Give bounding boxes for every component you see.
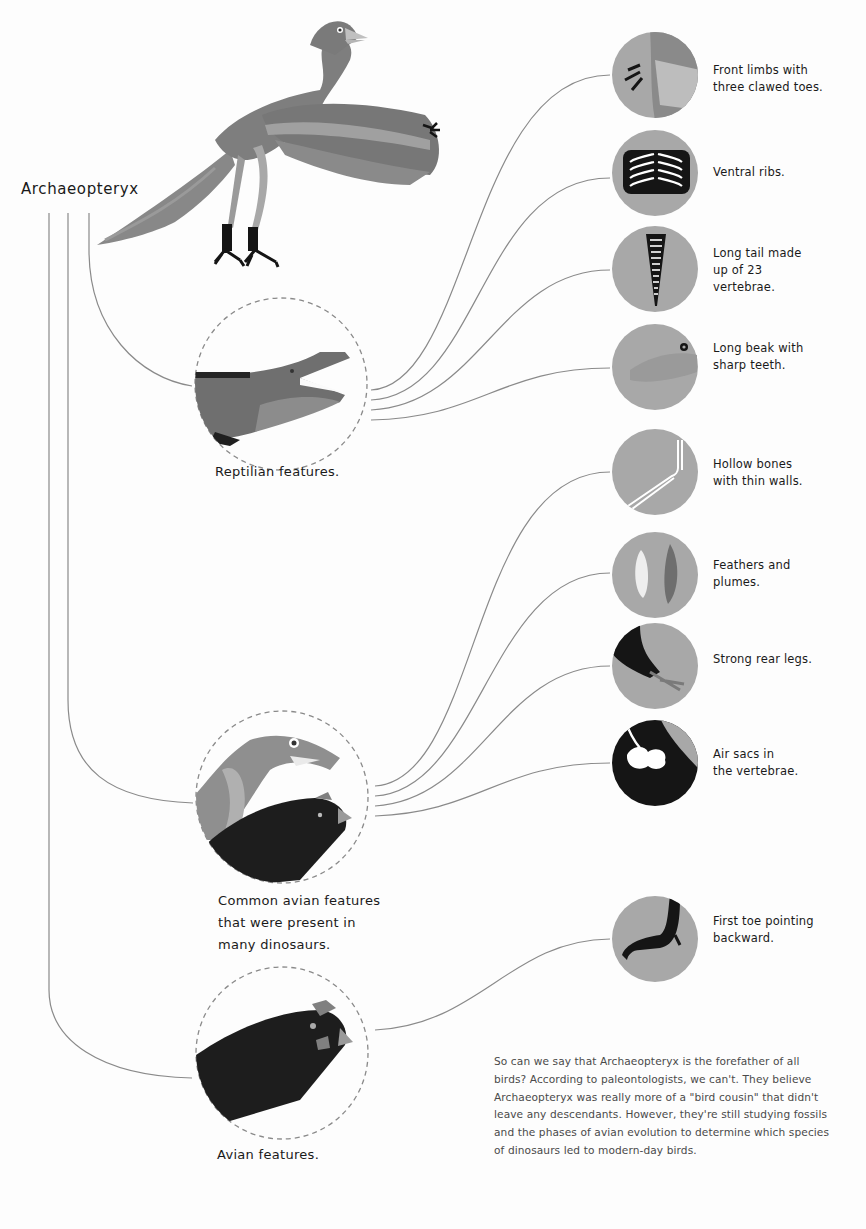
hollow-bone-icon	[612, 429, 698, 515]
tail-vertebrae-icon	[612, 226, 698, 312]
bird-foot-icon	[612, 895, 698, 982]
claw-icon	[612, 30, 700, 120]
feather-icon	[612, 532, 698, 618]
feature-label-feathers: Feathers and plumes.	[713, 557, 790, 591]
ribs-icon	[612, 130, 698, 216]
feature-label-long-tail: Long tail made up of 23 vertebrae.	[713, 245, 802, 296]
air-sac-icon	[612, 718, 710, 806]
feature-label-air-sacs: Air sacs in the vertebrae.	[713, 746, 798, 780]
feature-label-ventral-ribs: Ventral ribs.	[713, 164, 785, 181]
rear-leg-icon	[610, 623, 698, 709]
conclusion-paragraph: So can we say that Archaeopteryx is the …	[494, 1053, 834, 1160]
feature-label-front-limbs: Front limbs with three clawed toes.	[713, 62, 823, 96]
toothed-beak-icon	[612, 324, 698, 410]
feature-label-hollow-bones: Hollow bones with thin walls.	[713, 456, 803, 490]
feature-label-first-toe: First toe pointing backward.	[713, 913, 814, 947]
feature-label-rear-legs: Strong rear legs.	[713, 651, 812, 668]
feature-label-long-beak: Long beak with sharp teeth.	[713, 340, 803, 374]
